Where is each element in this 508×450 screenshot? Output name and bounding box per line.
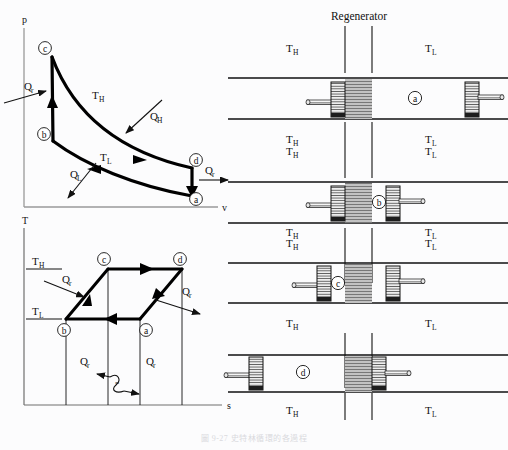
stage-c-TH-bottom-main: T — [286, 317, 293, 329]
stage-c-TH-bottom: T H — [286, 317, 299, 332]
pv-diagram: p v a b c d T H — [4, 14, 228, 213]
pv-label-TH-main: T — [92, 89, 99, 101]
stage-c-TL-bottom-sub: L — [432, 323, 437, 332]
stage-d-TL-bottom: T L — [425, 404, 437, 419]
cylinder-stage-d: d T H T L — [224, 355, 508, 419]
stage-a-TL-top-sub: L — [432, 48, 437, 57]
pv-label-QL-sub: L — [77, 174, 82, 183]
stage-c-right-piston — [386, 266, 425, 301]
stage-b-TH-bottom-sub: H — [293, 243, 299, 252]
stage-a-left-piston — [306, 82, 345, 117]
pv-label-TL-main: T — [100, 151, 107, 163]
stage-d-TL-bottom-main: T — [425, 404, 432, 416]
pv-arrow-bc — [47, 95, 58, 108]
ts-label-Qr-area-left: Q r — [80, 355, 90, 370]
pv-x-axis-label: v — [222, 202, 227, 213]
ts-arrow-ab — [104, 313, 117, 325]
pv-label-QH: Q H — [150, 110, 163, 125]
ts-state-a: a — [140, 324, 153, 337]
pv-label-Qr-out-sub: r — [212, 170, 215, 179]
ts-label-Qr-out-sub: r — [189, 291, 192, 300]
stage-b-TL-bottom-main: T — [425, 237, 432, 249]
ts-label-TH-sub: H — [39, 261, 45, 270]
stage-c-marker: c — [331, 276, 344, 289]
stage-d-regenerator-matrix — [345, 356, 372, 392]
stage-d-right-piston — [372, 357, 411, 390]
stage-b-TL-top-sub: L — [432, 151, 437, 160]
stage-c-TL-bottom-main: T — [425, 317, 432, 329]
stage-a-TL-top-main: T — [425, 42, 432, 54]
stage-a-TH-bottom-main: T — [286, 133, 293, 145]
stage-c-regenerator-matrix — [345, 264, 372, 303]
stage-b-marker: b — [372, 195, 385, 208]
pv-label-Qr-in-sub: r — [31, 86, 34, 95]
stage-d-TL-bottom-sub: L — [432, 410, 437, 419]
ts-state-c-label: c — [102, 255, 106, 265]
pv-label-Qr-in: Q r — [24, 80, 34, 95]
ts-label-TH-main: T — [32, 255, 39, 267]
stage-b-right-piston — [386, 186, 425, 221]
ts-label-Qr-out: Q r — [182, 285, 192, 300]
stage-c-TH-top-sub: H — [293, 232, 299, 241]
ts-label-Qr-area-left-sub: r — [87, 361, 90, 370]
ts-state-b: b — [58, 324, 71, 337]
cylinder-stage-a: T H T L — [228, 42, 508, 148]
stage-a-TH-top-main: T — [286, 42, 293, 54]
stage-d-TH-bottom-main: T — [286, 404, 293, 416]
pv-label-TL: T L — [100, 151, 112, 166]
stage-c-TH-top-main: T — [286, 226, 293, 238]
ts-state-b-label: b — [62, 326, 67, 336]
stage-d-marker-label: d — [301, 368, 306, 378]
pv-process-c-to-d — [52, 57, 192, 168]
pv-label-QH-sub: H — [157, 116, 163, 125]
ts-state-d-label: d — [178, 255, 183, 265]
pv-arrow-cd — [133, 155, 147, 164]
figure-canvas: p v a b c d T H — [0, 0, 508, 450]
stage-d-TH-bottom: T H — [286, 404, 299, 419]
pv-state-a: a — [190, 193, 203, 206]
pv-label-TH: T H — [92, 89, 105, 104]
ts-label-TL-main: T — [32, 305, 39, 317]
stage-c-TL-top-main: T — [425, 226, 432, 238]
pv-state-c-label: c — [43, 44, 47, 54]
pv-state-d: d — [190, 154, 203, 167]
ts-label-Qr-area-right: Q r — [146, 355, 156, 370]
stage-c-left-piston — [292, 266, 331, 301]
stage-a-TH-bottom-sub: H — [293, 139, 299, 148]
stage-b-TH-top-main: T — [286, 145, 293, 157]
stage-a-right-piston — [465, 82, 504, 117]
cylinder-stage-b: b T H T L T H T L — [228, 145, 508, 252]
ts-x-axis-label: s — [227, 400, 231, 411]
stage-a-marker: a — [408, 91, 421, 104]
pv-arrow-Qr-in — [4, 91, 46, 103]
pv-label-TL-sub: L — [107, 157, 112, 166]
cylinder-stage-c: c T H T L T H T L — [228, 226, 508, 332]
stage-b-marker-label: b — [377, 198, 382, 208]
stage-c-TH-bottom-sub: H — [293, 323, 299, 332]
pv-label-TH-sub: H — [99, 95, 105, 104]
ts-y-axis-label: T — [22, 215, 28, 226]
pv-y-axis-label: p — [22, 14, 27, 25]
stage-a-TL-top: T L — [425, 42, 437, 57]
pv-label-QL: Q L — [70, 168, 82, 183]
ts-label-Qr-in-sub: r — [69, 279, 72, 288]
stage-b-regenerator-matrix — [345, 183, 372, 223]
ts-label-Qr-area-right-sub: r — [153, 361, 156, 370]
figure-caption: 圖 9-27 史特林循環的各過程 — [0, 432, 508, 443]
stage-b-left-piston — [306, 186, 345, 221]
ts-label-TH: T H — [32, 255, 45, 270]
ts-label-TL-sub: L — [39, 311, 44, 320]
stage-a-TL-bottom-sub: L — [432, 139, 437, 148]
stage-b-TL-bottom-sub: L — [432, 243, 437, 252]
stage-a-TH-top-sub: H — [293, 48, 299, 57]
stage-c-marker-label: c — [336, 279, 340, 289]
ts-state-d: d — [174, 253, 187, 266]
ts-process-b-to-c — [66, 269, 108, 319]
pv-state-c: c — [39, 42, 52, 55]
stage-d-TH-bottom-sub: H — [293, 410, 299, 419]
pv-label-Qr-out: Q r — [205, 164, 215, 179]
ts-squiggle-arrow-right — [124, 391, 139, 394]
stage-c-TL-top-sub: L — [432, 232, 437, 241]
stage-b-TL-top-main: T — [425, 145, 432, 157]
ts-diagram: T s T H T L a — [22, 215, 231, 411]
